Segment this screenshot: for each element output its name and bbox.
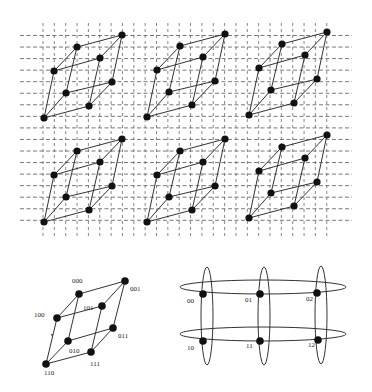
embedded-cubes [40, 28, 330, 225]
hypercube-node [87, 348, 95, 356]
cube-edge [271, 147, 282, 193]
torus-node [256, 290, 264, 298]
cube-node [118, 135, 125, 142]
cube-edge [169, 186, 215, 197]
node-label: 02 [306, 295, 314, 303]
cube-edge [147, 175, 157, 222]
node-label: 12 [308, 341, 316, 349]
cube-node [313, 178, 320, 185]
column-ring [258, 267, 270, 365]
cube-node [278, 40, 285, 47]
cube-edge [147, 70, 157, 117]
cube-node [40, 114, 47, 121]
cube-node [85, 206, 92, 213]
cube-edge [169, 46, 180, 92]
column-ring [315, 266, 327, 364]
cube-edge [249, 90, 271, 115]
cube-edge [249, 68, 259, 115]
cube-edge [317, 32, 327, 79]
cube-edge [271, 79, 317, 90]
cube-edge [271, 44, 282, 90]
cube-edge [294, 79, 317, 103]
cube-edge [89, 82, 112, 106]
node-label: 00 [187, 297, 195, 305]
node-label: 11 [246, 342, 253, 350]
cube-node [176, 42, 183, 49]
cube-edge [294, 158, 305, 206]
cube-node [96, 54, 103, 61]
cube-node [40, 218, 47, 225]
cube-node [211, 182, 218, 189]
cube-edge [89, 186, 112, 210]
cube-node [50, 67, 57, 74]
node-label: 100 [34, 311, 45, 319]
node-label: 01 [245, 296, 253, 304]
cube-edge [294, 182, 317, 206]
cube-node [290, 99, 297, 106]
cube-node [255, 64, 262, 71]
cube-edge [169, 81, 215, 92]
cube-node [211, 77, 218, 84]
cube-node [108, 182, 115, 189]
cube-node [323, 131, 330, 138]
cube-node [245, 214, 252, 221]
cube-node [118, 31, 125, 38]
cube-edge [192, 57, 203, 105]
torus-node [199, 337, 207, 345]
hypercube-edge [79, 281, 125, 294]
cube-node [267, 189, 274, 196]
cube-node [221, 30, 228, 37]
node-label: 011 [118, 332, 129, 340]
cube-edge [249, 171, 259, 218]
cube-node [221, 135, 228, 142]
cube-edge [147, 197, 169, 222]
cube-node [188, 206, 195, 213]
torus-node [256, 337, 264, 345]
cube-edge [249, 206, 294, 218]
cube-node [267, 86, 274, 93]
cube-node [153, 66, 160, 73]
cube-graph [40, 31, 125, 121]
cube-edge [66, 82, 112, 93]
torus-diagram: 000102101112 [180, 266, 346, 365]
cube-node [62, 89, 69, 96]
cube-graph [245, 28, 330, 118]
cube-node [278, 143, 285, 150]
hypercube-edge [68, 294, 79, 341]
cube-edge [249, 193, 271, 218]
hypercube-node [42, 360, 50, 368]
cube-edge [44, 197, 66, 222]
cube-node [255, 167, 262, 174]
cube-edge [271, 182, 317, 193]
cube-node [188, 101, 195, 108]
hypercube-node [121, 277, 129, 285]
hypercube-node [98, 302, 106, 310]
cube-edge [180, 139, 225, 151]
node-label: 110 [44, 369, 55, 377]
cube-edge [282, 135, 327, 147]
cube-edge [294, 55, 305, 103]
hypercube-edge [57, 306, 102, 318]
cube-edge [44, 175, 54, 222]
cube-node [73, 43, 80, 50]
hypercube-node [53, 314, 61, 322]
cube-node [176, 147, 183, 154]
cube-edge [147, 105, 192, 117]
hypercube-edge [91, 306, 102, 352]
cube-graph [245, 131, 330, 221]
cube-edge [192, 186, 215, 210]
cube-node [165, 193, 172, 200]
node-label: 001 [130, 285, 141, 293]
cube-edge [192, 162, 203, 210]
cube-node [313, 75, 320, 82]
cube-edge [66, 186, 112, 197]
hypercube-node [64, 337, 72, 345]
torus-node [199, 290, 207, 298]
torus-node [314, 336, 322, 344]
hypercube-node [109, 324, 117, 332]
cube-node [50, 171, 57, 178]
cube-graph [143, 135, 228, 225]
cube-node [165, 88, 172, 95]
cube-node [301, 51, 308, 58]
cube-node [108, 78, 115, 85]
